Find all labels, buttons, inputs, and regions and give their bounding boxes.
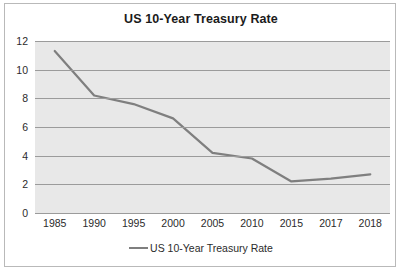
gridline-8 (35, 98, 390, 99)
plot-area (35, 41, 390, 213)
gridline-10 (35, 70, 390, 71)
chart-card: US 10-Year Treasury Rate 024681012 19851… (4, 3, 396, 267)
y-axis-tick-12: 12 (5, 35, 32, 47)
legend-label: US 10-Year Treasury Rate (150, 242, 273, 254)
legend-line-swatch-icon (129, 247, 148, 249)
y-axis-tick-4: 4 (5, 150, 32, 162)
x-axis-tick-1985: 1985 (43, 217, 66, 229)
x-axis-tick-2000: 2000 (161, 217, 184, 229)
x-axis-tick-1995: 1995 (122, 217, 145, 229)
gridline-2 (35, 184, 390, 185)
y-axis-tick-2: 2 (5, 178, 32, 190)
x-axis-tick-2018: 2018 (359, 217, 382, 229)
chart-title: US 10-Year Treasury Rate (5, 12, 397, 26)
x-axis-tick-2005: 2005 (201, 217, 224, 229)
y-axis-tick-6: 6 (5, 121, 32, 133)
y-axis-tick-8: 8 (5, 92, 32, 104)
x-axis-tick-1990: 1990 (82, 217, 105, 229)
gridline-6 (35, 127, 390, 128)
y-axis: 024681012 (5, 41, 32, 213)
gridline-4 (35, 156, 390, 157)
x-axis: 198519901995200020052010201520172018 (35, 217, 390, 233)
gridline-0 (35, 213, 390, 214)
chart-legend: US 10-Year Treasury Rate (5, 242, 397, 254)
y-axis-tick-10: 10 (5, 64, 32, 76)
x-axis-tick-2010: 2010 (240, 217, 263, 229)
gridline-12 (35, 41, 390, 42)
x-axis-tick-2015: 2015 (280, 217, 303, 229)
y-axis-tick-0: 0 (5, 207, 32, 219)
x-axis-tick-2017: 2017 (319, 217, 342, 229)
